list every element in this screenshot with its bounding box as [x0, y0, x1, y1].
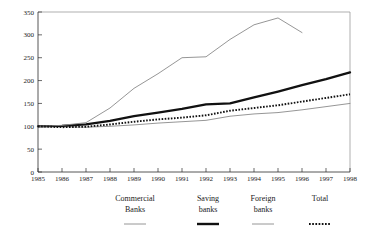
y-tick-label: 200	[24, 77, 35, 85]
chart-legend: CommercialBanksSavingbanksForeignbanksTo…	[115, 194, 331, 224]
x-tick-label: 1985	[31, 175, 46, 183]
y-axis: 050100150200250300350	[24, 9, 43, 177]
x-tick-label: 1994	[247, 175, 262, 183]
x-tick-label: 1997	[319, 175, 334, 183]
legend-item: Total	[309, 194, 331, 224]
legend-item: CommercialBanks	[115, 194, 155, 224]
series-line-total	[38, 94, 350, 127]
y-tick-label: 300	[24, 31, 35, 39]
x-tick-label: 1990	[151, 175, 166, 183]
y-tick-label: 250	[24, 54, 35, 62]
x-tick-label: 1998	[343, 175, 358, 183]
legend-label-line2: Banks	[125, 205, 145, 214]
series-group	[38, 18, 350, 127]
x-tick-group: 1985198619871988198919901991199219931994…	[31, 168, 358, 183]
legend-label-line1: Foreign	[251, 194, 276, 203]
x-tick-label: 1992	[199, 175, 214, 183]
x-tick-label: 1989	[127, 175, 142, 183]
x-axis: 1985198619871988198919901991199219931994…	[31, 168, 358, 183]
x-tick-label: 1995	[271, 175, 286, 183]
x-tick-label: 1986	[55, 175, 70, 183]
line-chart: 050100150200250300350 198519861987198819…	[0, 0, 374, 232]
x-tick-label: 1988	[103, 175, 118, 183]
x-tick-label: 1991	[175, 175, 190, 183]
x-tick-label: 1996	[295, 175, 310, 183]
y-tick-label: 100	[24, 123, 35, 131]
y-tick-label: 50	[27, 146, 35, 154]
y-tick-label: 350	[24, 9, 35, 17]
series-line-saving-banks	[38, 72, 350, 126]
legend-label-line2: banks	[199, 205, 218, 214]
legend-label-line1: Commercial	[115, 194, 155, 203]
legend-label-line2: banks	[254, 205, 273, 214]
plot-frame	[38, 12, 350, 172]
legend-item: Foreignbanks	[251, 194, 276, 224]
x-tick-label: 1993	[223, 175, 238, 183]
legend-label-line1: Saving	[197, 194, 219, 203]
y-tick-label: 150	[24, 100, 35, 108]
y-tick-group: 050100150200250300350	[24, 9, 43, 177]
legend-item: Savingbanks	[197, 194, 219, 224]
chart-container: 050100150200250300350 198519861987198819…	[0, 0, 374, 232]
x-tick-label: 1987	[79, 175, 94, 183]
legend-label-line1: Total	[312, 194, 329, 203]
